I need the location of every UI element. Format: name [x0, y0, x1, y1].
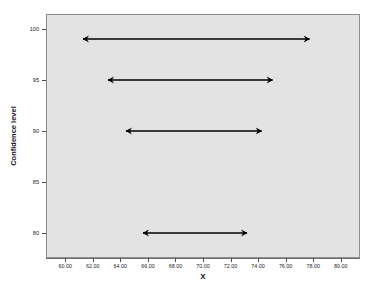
y-axis-tick: [42, 233, 46, 234]
x-axis-tick-label: 60.00: [59, 263, 73, 269]
x-axis-tick-label: 76.00: [279, 263, 293, 269]
interval-arrow: [125, 124, 263, 138]
x-axis-tick-label: 62.00: [86, 263, 100, 269]
y-axis-title: Confidence level: [6, 14, 20, 258]
x-axis-tick: [93, 258, 94, 262]
y-axis-tick: [42, 131, 46, 132]
interval-arrow: [142, 226, 248, 240]
y-axis-tick-label: 95: [0, 77, 39, 83]
x-axis-tick-label: 70.00: [196, 263, 210, 269]
x-axis-tick: [175, 258, 176, 262]
x-axis-tick: [148, 258, 149, 262]
x-axis-tick: [65, 258, 66, 262]
x-axis-title: X: [46, 272, 360, 281]
y-axis-tick: [42, 29, 46, 30]
y-axis-tick: [42, 80, 46, 81]
y-axis-title-text: Confidence level: [9, 106, 18, 166]
y-axis-tick-label: 100: [0, 26, 39, 32]
x-axis-tick: [286, 258, 287, 262]
x-axis-tick: [120, 258, 121, 262]
x-axis-tick-label: 68.00: [169, 263, 183, 269]
x-axis-tick-label: 72.00: [224, 263, 238, 269]
x-axis-tick: [313, 258, 314, 262]
x-axis-tick-label: 66.00: [141, 263, 155, 269]
x-axis-tick: [258, 258, 259, 262]
y-axis-tick-label: 80: [0, 230, 39, 236]
x-axis-tick: [203, 258, 204, 262]
x-axis-tick-label: 74.00: [251, 263, 265, 269]
confidence-interval-chart: Confidence level 80859095100 60.0062.006…: [0, 0, 378, 297]
x-axis-tick: [231, 258, 232, 262]
x-axis-tick-label: 78.00: [306, 263, 320, 269]
y-axis-tick-label: 85: [0, 179, 39, 185]
interval-arrow: [82, 32, 311, 46]
y-axis-tick-label: 90: [0, 128, 39, 134]
y-axis-tick: [42, 182, 46, 183]
x-axis-tick: [341, 258, 342, 262]
interval-arrow: [107, 73, 274, 87]
x-axis-tick-label: 80.00: [334, 263, 348, 269]
x-axis-tick-label: 64.00: [114, 263, 128, 269]
